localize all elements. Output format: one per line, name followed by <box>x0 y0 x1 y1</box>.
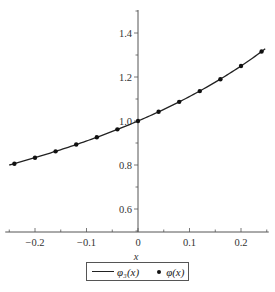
data-point <box>12 161 16 165</box>
y-tick-label: 1.0 <box>119 116 132 127</box>
x-tick-label: 0.2 <box>234 237 247 248</box>
data-point <box>33 156 37 160</box>
chart-canvas: −0.2−0.100.10.20.60.81.01.21.4 x <box>0 0 275 292</box>
data-point <box>198 89 202 93</box>
legend-label-phi3: φ₃(x) <box>117 266 139 278</box>
data-point <box>156 110 160 114</box>
x-tick-label: 0 <box>135 237 140 248</box>
data-point <box>259 49 263 53</box>
legend: φ₃(x) φ(x) <box>86 262 189 281</box>
y-tick-label: 1.2 <box>119 72 132 83</box>
x-tick-label: −0.1 <box>77 237 96 248</box>
x-tick-label: 0.1 <box>183 237 196 248</box>
y-tick-label: 0.8 <box>119 160 132 171</box>
data-point <box>115 127 119 131</box>
legend-dot-swatch <box>157 270 161 274</box>
legend-line-swatch <box>92 271 114 272</box>
phi3-curve <box>9 49 265 165</box>
data-point <box>239 64 243 68</box>
y-tick-label: 0.6 <box>119 204 132 215</box>
data-point <box>177 100 181 104</box>
data-point <box>218 77 222 81</box>
y-tick-label: 1.4 <box>119 28 133 39</box>
legend-label-phi: φ(x) <box>166 266 184 278</box>
data-point <box>74 142 78 146</box>
data-point <box>95 135 99 139</box>
x-axis-label: x <box>133 251 139 262</box>
x-tick-label: −0.2 <box>25 237 44 248</box>
data-point <box>136 119 140 123</box>
data-point <box>53 149 57 153</box>
axes: −0.2−0.100.10.20.60.81.01.21.4 <box>5 10 269 248</box>
